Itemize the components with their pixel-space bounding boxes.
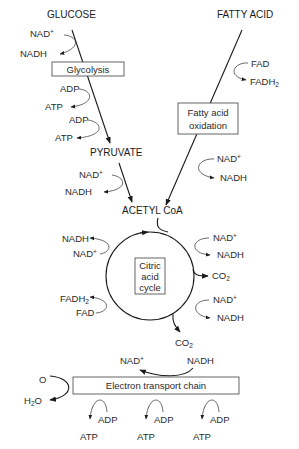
pyruvate-nadh-out: NADH <box>65 186 92 197</box>
fatty-fadh2-out: FADH2 <box>250 76 279 88</box>
fatty-acid-label: FATTY ACID <box>217 9 273 20</box>
glycolysis-nad-arrow <box>60 35 76 54</box>
cycle-label-3: cycle <box>139 282 161 293</box>
svg-text:ADP: ADP <box>210 414 230 425</box>
etc-oxygen-in: O <box>39 374 46 385</box>
pyruvate-nad-in: NAD+ <box>79 169 103 180</box>
fatty-fad-arrow <box>234 63 248 80</box>
cycle-left-fad-in: FAD <box>76 307 95 318</box>
fatty-nadh-out: NADH <box>220 172 247 183</box>
pyruvate-nad-arrow <box>104 175 123 192</box>
cycle-right-co2-arrow <box>193 270 208 276</box>
cycle-right-nad-arrow-1 <box>195 238 210 255</box>
glycolysis-label: Glycolysis <box>67 64 110 75</box>
etc-atp-step-2: ADP ATP <box>137 400 174 442</box>
cycle-left-nadh-out: NADH <box>62 233 89 244</box>
cycle-left-fadh2-out: FADH2 <box>60 293 89 305</box>
fatty-acid-oxidation-label-1: Fatty acid <box>187 107 228 118</box>
etc-nadh-arrow <box>140 368 193 376</box>
etc-nadh-in: NADH <box>187 355 214 366</box>
glycolysis-adp-2: ADP <box>69 114 89 125</box>
cycle-label-2: acid <box>141 271 158 282</box>
cycle-right-nad-in-1: NAD+ <box>213 232 237 243</box>
etc-label: Electron transport chain <box>106 380 206 391</box>
etc-atp-step-3: ADP ATP <box>193 400 230 442</box>
glycolysis-nadh-out: NADH <box>20 48 47 59</box>
etc-water-out: H2O <box>24 395 42 407</box>
fatty-fad-in: FAD <box>251 58 270 69</box>
svg-text:ADP: ADP <box>154 414 174 425</box>
cycle-label-1: Citric <box>139 260 161 271</box>
cycle-bottom-co2-out: CO2 <box>175 337 193 349</box>
fatty-acid-oxidation-label-2: oxidation <box>189 120 227 131</box>
fatty-nad-in: NAD+ <box>217 153 241 164</box>
cycle-right-co2-out: CO2 <box>212 270 230 282</box>
etc-atp-step-1: ADP ATP <box>80 400 118 442</box>
fatty-nad-arrow <box>199 159 214 178</box>
glycolysis-adp-1: ADP <box>60 83 80 94</box>
acetyl-coa-entry <box>157 218 168 232</box>
svg-text:ATP: ATP <box>193 431 211 442</box>
svg-text:ATP: ATP <box>137 431 155 442</box>
glucose-label: GLUCOSE <box>47 9 96 20</box>
pyruvate-label: PYRUVATE <box>90 147 143 158</box>
glycolysis-nad-in: NAD+ <box>30 28 54 39</box>
cycle-bottom-co2-arrow <box>173 314 180 332</box>
glycolysis-atp-2: ATP <box>55 132 73 143</box>
etc-oxygen-arrow <box>50 376 69 400</box>
glycolysis-atp-1: ATP <box>45 101 63 112</box>
acetyl-coa-label: ACETYL CoA <box>122 205 183 216</box>
cycle-right-nadh-out-1: NADH <box>217 249 244 260</box>
cycle-left-nad-in: NAD+ <box>73 248 97 259</box>
respiration-diagram: GLUCOSE NAD+ NADH Glycolysis ADP ATP ADP… <box>0 0 299 449</box>
cycle-direction-arrow <box>140 232 148 233</box>
pyruvate-to-acetylcoa-arrow <box>119 163 132 202</box>
cycle-right-nad-arrow-2 <box>196 300 210 318</box>
cycle-right-nad-in-2: NAD+ <box>213 294 237 305</box>
svg-text:ATP: ATP <box>80 431 98 442</box>
svg-text:ADP: ADP <box>98 414 118 425</box>
cycle-right-nadh-out-2: NADH <box>217 312 244 323</box>
etc-nad-out: NAD+ <box>120 355 144 366</box>
